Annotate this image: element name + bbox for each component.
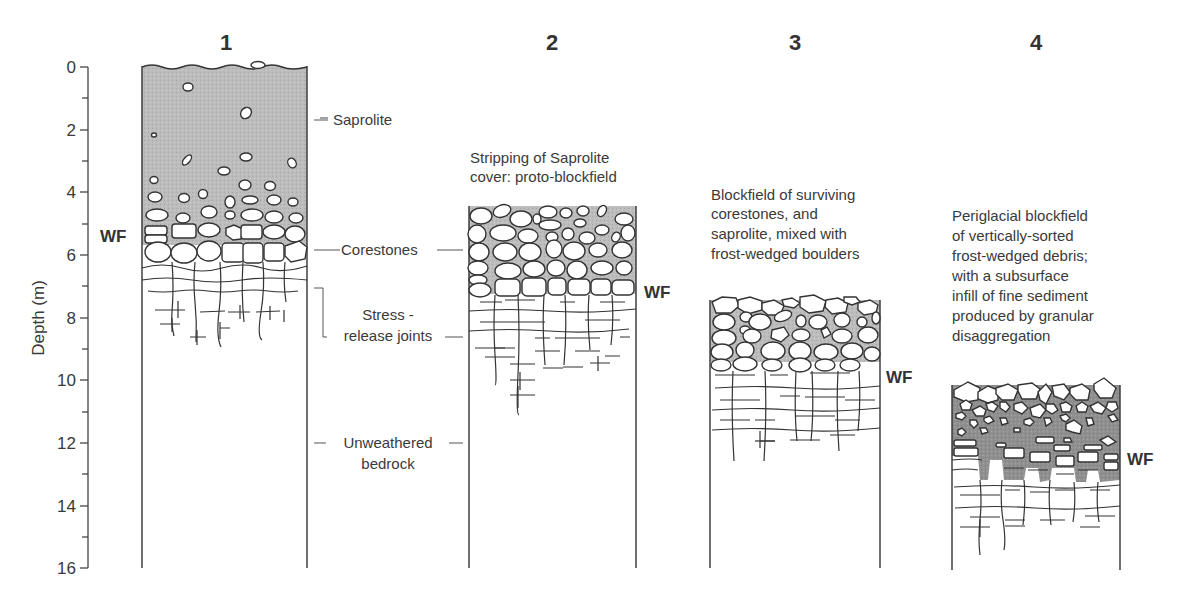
description-line: cover: proto-blockfield [470, 168, 617, 185]
description-line: disaggregation [952, 327, 1050, 344]
description-line: with a subsurface [951, 267, 1069, 284]
description-line: frost-wedged boulders [711, 245, 859, 262]
profile-1 [142, 62, 328, 569]
y-axis-label: Depth (m) [29, 280, 48, 356]
tick-label: 12 [57, 434, 76, 453]
tick-label: 8 [67, 309, 76, 328]
depth-axis-ticks: 0 2 4 6 8 10 12 14 16 [57, 58, 76, 578]
profile-number-3: 3 [789, 30, 801, 55]
tick-label: 10 [57, 371, 76, 390]
tick-label: 4 [67, 183, 76, 202]
description-line: saprolite, mixed with [711, 225, 847, 242]
label-saprolite: Saprolite [333, 111, 392, 128]
profile-3 [710, 295, 880, 568]
tick-label: 2 [67, 121, 76, 140]
description-line: Periglacial blockfield [952, 207, 1088, 224]
depth-axis [80, 67, 88, 568]
weathering-front-label-2: WF [644, 283, 670, 302]
weathering-front-label-3: WF [886, 368, 912, 387]
stress-release-joints [142, 262, 307, 347]
description-line: produced by granular [952, 307, 1094, 324]
profile-number-1: 1 [220, 30, 232, 55]
label-stress-release-line1: Stress - [362, 306, 414, 323]
tick-label: 0 [67, 58, 76, 77]
weathering-front-label-1: WF [100, 227, 126, 246]
label-corestones: Corestones [341, 241, 418, 258]
weathering-front-label-4: WF [1127, 450, 1153, 469]
description-line: frost-wedged debris; [952, 247, 1088, 264]
description-line: infill of fine sediment [952, 287, 1089, 304]
profile-2-description: Stripping of Saprolite cover: proto-bloc… [470, 149, 617, 185]
profile-2 [468, 202, 636, 568]
profile-4-description: Periglacial blockfield of vertically-sor… [951, 207, 1094, 344]
tick-label: 16 [57, 559, 76, 578]
label-bedrock-line2: bedrock [361, 455, 415, 472]
profile-3-description: Blockfield of surviving corestones, and … [711, 186, 859, 262]
description-line: Stripping of Saprolite [470, 149, 609, 166]
label-bedrock-line1: Unweathered [343, 434, 432, 451]
profile-4 [952, 378, 1120, 570]
tick-label: 6 [67, 246, 76, 265]
description-line: of vertically-sorted [952, 227, 1074, 244]
description-line: corestones, and [711, 205, 818, 222]
tick-label: 14 [57, 497, 76, 516]
weathering-profile-diagram: 0 2 4 6 8 10 12 14 16 Depth (m) 1 2 3 4 [0, 0, 1194, 604]
description-line: Blockfield of surviving [711, 186, 855, 203]
label-stress-release-line2: release joints [344, 327, 432, 344]
annotations: Saprolite Corestones Stress - release jo… [314, 111, 463, 472]
profile-number-2: 2 [546, 30, 558, 55]
profile-number-4: 4 [1030, 30, 1043, 55]
